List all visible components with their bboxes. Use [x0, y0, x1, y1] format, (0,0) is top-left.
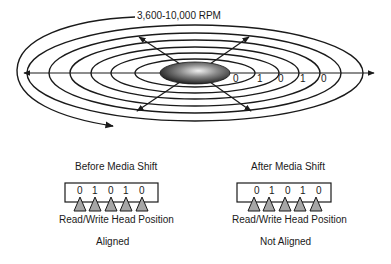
after-title: After Media Shift — [251, 161, 325, 172]
track-bit: 1 — [257, 73, 263, 84]
track-bit: 0 — [278, 73, 284, 84]
before-bit: 0 — [108, 185, 114, 196]
after-status: Not Aligned — [260, 236, 311, 247]
rpm-label: 3,600-10,000 RPM — [137, 10, 221, 21]
before-bit: 0 — [77, 185, 83, 196]
after-bit: 1 — [300, 185, 306, 196]
before-bit: 1 — [92, 185, 98, 196]
after-bit: 0 — [285, 185, 291, 196]
before-bit: 1 — [123, 185, 129, 196]
spindle-hub — [160, 62, 230, 84]
before-head-label: Read/Write Head Position — [59, 214, 174, 225]
after-bit: 1 — [269, 185, 275, 196]
rotation-arrow — [17, 17, 135, 126]
before-bit: 0 — [139, 185, 145, 196]
track-bit: 1 — [300, 73, 306, 84]
track-bit: 0 — [321, 73, 327, 84]
after-bit: 0 — [254, 185, 260, 196]
before-title: Before Media Shift — [75, 161, 157, 172]
track-bit: 0 — [233, 73, 239, 84]
before-status: Aligned — [96, 236, 129, 247]
after-bit: 0 — [316, 185, 322, 196]
after-head-label: Read/Write Head Position — [232, 214, 347, 225]
